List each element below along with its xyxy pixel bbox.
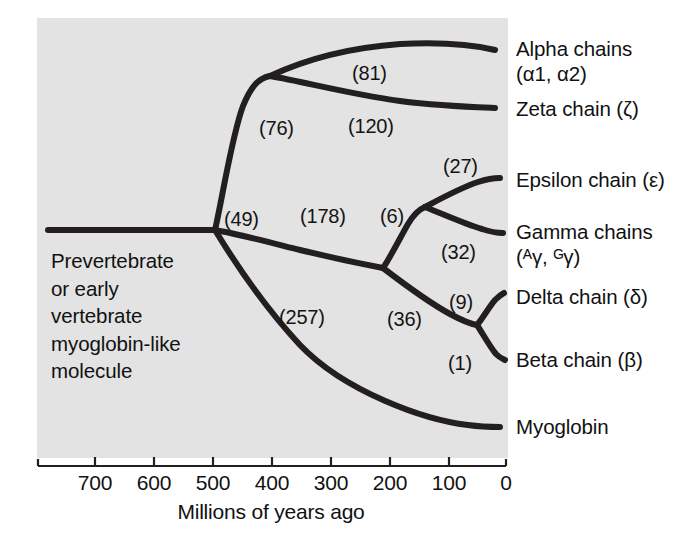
axis-tick-300: 300 (314, 471, 348, 495)
tip-label-alpha-chains-line1: Alpha chains (516, 36, 632, 61)
tip-label-alpha-chains-line2: (α1, α2) (516, 61, 632, 86)
branch-label-epsilon-stem: (6) (380, 205, 404, 228)
branch-label-delta-beta-stem: (36) (387, 308, 422, 331)
branch-beta-group-stem (215, 230, 383, 268)
axis-tick-0: 0 (500, 471, 511, 495)
branch-delta (477, 293, 504, 325)
branch-label-delta-branch: (9) (449, 291, 473, 314)
branch-label-beta-branch: (1) (448, 352, 472, 375)
axis-line (38, 457, 506, 466)
branch-beta (477, 325, 505, 360)
tip-label-gamma-chains-line1: Gamma chains (516, 219, 653, 244)
tip-label-zeta-chain: Zeta chain (ζ) (516, 96, 639, 121)
ancestor-line-5: molecule (51, 357, 181, 385)
ancestor-line-4: myoglobin-like (51, 330, 181, 358)
branch-label-epsilon-branch: (27) (443, 155, 478, 178)
tip-label-alpha-chains: Alpha chains(α1, α2) (516, 36, 632, 86)
tip-label-myoglobin-line1: Myoglobin (516, 414, 609, 439)
tip-label-epsilon-chain-line1: Epsilon chain (ε) (516, 167, 665, 192)
ancestor-line-3: vertebrate (51, 302, 181, 330)
branch-label-root-split: (49) (224, 208, 259, 231)
branch-label-alpha-branch: (81) (352, 62, 387, 85)
tip-label-myoglobin: Myoglobin (516, 414, 609, 439)
tip-label-zeta-chain-line1: Zeta chain (ζ) (516, 96, 639, 121)
ancestor-line-1: Prevertebrate (51, 247, 181, 275)
axis-tick-700: 700 (78, 471, 112, 495)
tip-label-beta-chain: Beta chain (β) (516, 347, 643, 372)
ancestor-line-2: or early (51, 275, 181, 303)
axis-tick-400: 400 (255, 471, 289, 495)
tip-label-beta-chain-line1: Beta chain (β) (516, 347, 643, 372)
axis-title: Millions of years ago (177, 500, 364, 524)
branch-alpha-zeta-stem (215, 76, 270, 230)
tip-label-gamma-chains: Gamma chains(ᴬγ, ᴳγ) (516, 219, 653, 269)
axis-tick-100: 100 (432, 471, 466, 495)
branch-label-zeta-branch: (120) (348, 115, 394, 138)
tip-label-gamma-chains-line2: (ᴬγ, ᴳγ) (516, 244, 653, 269)
branch-gamma (425, 207, 503, 233)
tip-label-delta-chain-line1: Delta chain (δ) (516, 284, 648, 309)
branch-label-gamma-branch: (32) (441, 241, 476, 264)
axis-tick-600: 600 (137, 471, 171, 495)
axis-tick-500: 500 (196, 471, 230, 495)
ancestor-label: Prevertebrate or early vertebrate myoglo… (51, 247, 181, 385)
tip-label-delta-chain: Delta chain (δ) (516, 284, 648, 309)
branch-label-myoglobin-branch: (257) (279, 306, 325, 329)
tip-label-epsilon-chain: Epsilon chain (ε) (516, 167, 665, 192)
branch-label-alpha-zeta-split: (76) (259, 117, 294, 140)
branch-label-beta-group-stem: (178) (300, 205, 346, 228)
branch-epsilon (425, 178, 500, 207)
axis-tick-200: 200 (373, 471, 407, 495)
figure-root: Prevertebrate or early vertebrate myoglo… (0, 0, 692, 545)
